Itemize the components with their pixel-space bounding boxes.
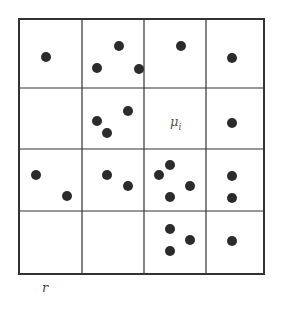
data-point bbox=[176, 41, 186, 51]
data-point bbox=[227, 118, 237, 128]
data-point bbox=[31, 170, 41, 180]
data-point bbox=[185, 181, 195, 191]
data-point bbox=[227, 193, 237, 203]
cell-label-mu-i: μi bbox=[170, 114, 181, 132]
data-point bbox=[227, 171, 237, 181]
data-point bbox=[62, 191, 72, 201]
data-point bbox=[102, 128, 112, 138]
data-point bbox=[165, 246, 175, 256]
data-point bbox=[123, 106, 133, 116]
data-point bbox=[134, 64, 144, 74]
axis-label-r: r bbox=[42, 280, 48, 295]
data-point bbox=[227, 53, 237, 63]
data-point bbox=[123, 181, 133, 191]
data-point bbox=[92, 63, 102, 73]
data-point bbox=[185, 235, 195, 245]
mu-subscript: i bbox=[178, 122, 181, 132]
data-point bbox=[41, 52, 51, 62]
data-point bbox=[227, 236, 237, 246]
grid-diagram bbox=[0, 0, 282, 314]
data-point bbox=[165, 192, 175, 202]
data-point bbox=[114, 41, 124, 51]
data-point bbox=[165, 160, 175, 170]
data-point bbox=[165, 224, 175, 234]
data-point bbox=[154, 170, 164, 180]
data-point bbox=[102, 170, 112, 180]
data-point bbox=[92, 116, 102, 126]
